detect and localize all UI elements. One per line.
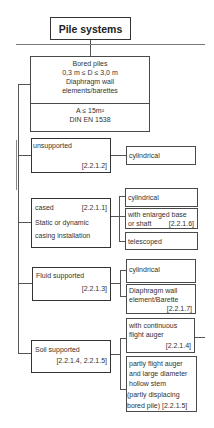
soil-connector [111,354,120,355]
child-label-line-5: bored pile) [2.2.1.5] [127,401,187,410]
category-label: cased [35,203,54,212]
category-ref: [2.2.1.4, 2.2.1.5] [56,356,107,365]
child-label-line-1: with continuous [129,321,177,330]
child-cased-enlarged: with enlarged base or shaft [2.2.1.6] [125,208,198,229]
category-label: Soil supported [35,345,80,354]
child-soil-partly-flight-auger: partly flight auger and large diameter h… [126,356,197,412]
fluid-branch-vertical [120,270,121,297]
cased-branch-vertical [119,196,120,242]
child-label-line-4: (partly displacing [127,390,180,399]
category-fluid-supported: Fluid supported [2.2.1.3] [32,267,111,301]
child-ref: [2.2.1.7] [167,304,192,313]
child-fluid-cylindrical: cylindrical [126,259,196,283]
soil-branch-vertical [120,338,121,390]
child-label-line-1: partly flight auger [129,359,183,368]
child-ref: [2.2.1.6] [169,219,194,228]
category-ref: [2.2.1.3] [82,284,107,293]
horizontal-rule [16,44,205,45]
root-line-3: Diaphragm wall [31,77,149,86]
root-standard: DIN EN 1538 [31,115,149,124]
child-unsupported-cylindrical: cylindrical [126,146,196,165]
spine-to-cased [18,222,31,223]
child-cased-telescoped: telescoped [125,232,198,250]
root-box-bored-piles: Bored piles 0,3 m ≤ D ≤ 3,0 m Diaphragm … [30,56,150,132]
root-area: A ≤ 15m² [31,106,149,115]
spine-to-fluid [18,283,32,284]
root-line-4: elements/barettes [31,86,149,95]
child-label-line-2: and large diameter [129,369,187,378]
child-soil-continuous-flight-auger: with continuous flight auger [2.2.1.4] [126,318,195,353]
child-label-line-2: flight auger [129,330,164,339]
continuous-outgoing-stub [195,337,205,338]
category-method-line-2: casing installation [35,231,90,240]
cased-connector [111,216,119,217]
child-label-line-2: or shaft [128,219,151,228]
category-ref: [2.2.1.1] [82,203,107,212]
root-separator [31,103,149,104]
category-label: unsupported [33,141,72,150]
category-unsupported: unsupported [2.2.1.2] [31,138,111,173]
spine-accent [16,140,17,190]
category-soil-supported: Soil supported [2.2.1.4, 2.2.1.5] [31,340,111,373]
category-method-line-1: Static or dynamic [35,218,89,227]
spine-to-soil [18,353,31,354]
child-label: cylindrical [129,151,160,160]
category-ref: [2.2.1.2] [82,161,107,170]
unsupported-to-child [111,155,126,156]
child-label-line-2: element/Barette [129,295,178,304]
child-label-line-3: hollow stem [129,379,166,388]
child-label: cylindrical [128,193,159,202]
title-box: Pile systems [50,17,131,40]
category-label: Fluid supported [36,271,84,280]
category-cased: cased [2.2.1.1] Static or dynamic casing… [31,198,111,248]
root-line-2: 0,3 m ≤ D ≤ 3,0 m [31,68,149,77]
child-label-line-1: with enlarged base [128,210,187,219]
child-label: cylindrical [129,265,160,274]
spine-top-connector [18,84,30,85]
child-fluid-diaphragm-wall: Diaphragm wall element/Barette [2.2.1.7] [126,284,196,314]
left-spine [18,84,19,354]
child-ref: [2.2.1.4] [166,341,191,350]
child-label-line-1: Diaphragm wall [129,286,177,295]
child-label: telescoped [128,237,162,246]
spine-to-unsupported [18,155,31,156]
child-cased-cylindrical: cylindrical [125,188,198,207]
fluid-connector [111,283,120,284]
diagram-title: Pile systems [59,23,123,35]
root-line-1: Bored piles [31,59,149,68]
connector-title-down [90,40,91,56]
